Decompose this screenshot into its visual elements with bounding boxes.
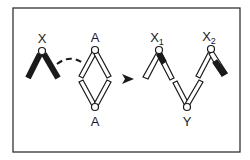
arrow-right-icon bbox=[122, 74, 134, 84]
label-y: Y bbox=[183, 114, 192, 129]
label-a-bottom: A bbox=[91, 114, 100, 129]
x2-chromosome bbox=[196, 46, 227, 79]
dashed-link bbox=[57, 59, 83, 64]
y-chromosome bbox=[173, 80, 203, 111]
x-chromosome bbox=[28, 48, 58, 79]
x-centromere bbox=[39, 48, 46, 55]
label-x1: X1 bbox=[150, 30, 164, 47]
a-top-node bbox=[92, 47, 99, 54]
label-a-top: A bbox=[91, 30, 100, 45]
label-x2: X2 bbox=[202, 29, 216, 46]
diagram-canvas: X A A X1 Y X2 bbox=[0, 0, 250, 160]
a-bottom-node bbox=[92, 104, 99, 111]
a-diamond bbox=[79, 47, 111, 111]
x1-chromosome bbox=[143, 47, 174, 81]
label-x: X bbox=[38, 31, 47, 46]
